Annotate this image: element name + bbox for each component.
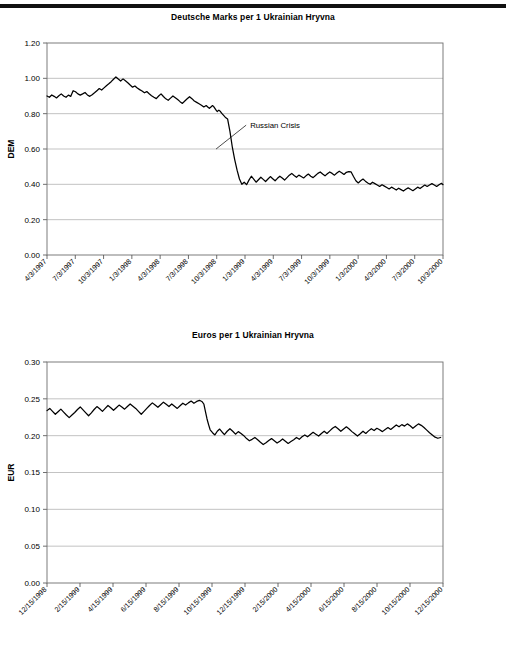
- x-tick-label: 10/3/1998: [189, 257, 218, 286]
- x-tick-label: 2/15/2000: [250, 585, 279, 614]
- annotation-leader-line: [216, 125, 246, 149]
- x-tick-label: 8/15/2000: [349, 585, 378, 614]
- data-series-line: [47, 400, 441, 444]
- x-tick-label: 6/15/1999: [118, 585, 147, 614]
- page-top-rule: [0, 4, 506, 8]
- x-tick-label: 7/3/1997: [51, 257, 77, 283]
- x-tick-label: 4/3/2000: [362, 257, 388, 283]
- x-tick-label: 7/3/1999: [277, 257, 303, 283]
- x-tick-label: 1/3/2000: [333, 257, 359, 283]
- x-tick-label: 4/15/1999: [85, 585, 114, 614]
- x-tick-label: 12/15/1998: [17, 585, 49, 617]
- y-tick-label: 0.10: [24, 505, 40, 514]
- chart-eur-canvas: 0.000.050.100.150.200.250.3012/15/19982/…: [0, 340, 506, 640]
- y-tick-label: 0.05: [24, 542, 40, 551]
- chart-dem-title: Deutsche Marks per 1 Ukrainian Hryvna: [0, 12, 506, 22]
- y-tick-label: 0.25: [24, 395, 40, 404]
- annotation-label: Russian Crisis: [250, 121, 300, 130]
- x-tick-label: 10/3/1999: [302, 257, 331, 286]
- x-tick-label: 10/15/2000: [380, 585, 412, 617]
- x-tick-label: 6/15/2000: [316, 585, 345, 614]
- x-tick-label: 12/15/2000: [413, 585, 445, 617]
- y-tick-label: 0.00: [24, 251, 40, 260]
- chart-dem: Deutsche Marks per 1 Ukrainian Hryvna 0.…: [0, 12, 506, 312]
- y-tick-label: 0.30: [24, 358, 40, 367]
- y-tick-label: 0.15: [24, 468, 40, 477]
- x-tick-label: 1/3/1998: [107, 257, 133, 283]
- x-tick-label: 7/3/2000: [390, 257, 416, 283]
- y-tick-label: 0.20: [24, 432, 40, 441]
- chart-page: Deutsche Marks per 1 Ukrainian Hryvna 0.…: [0, 0, 506, 646]
- y-tick-label: 0.60: [24, 145, 40, 154]
- chart-eur: Euros per 1 Ukrainian Hryvna 0.000.050.1…: [0, 330, 506, 646]
- x-tick-label: 7/3/1998: [164, 257, 190, 283]
- y-tick-label: 0.40: [24, 180, 40, 189]
- chart-eur-title: Euros per 1 Ukrainian Hryvna: [0, 330, 506, 340]
- y-tick-label: 0.20: [24, 216, 40, 225]
- y-tick-label: 1.20: [24, 39, 40, 48]
- x-tick-label: 10/15/1999: [182, 585, 214, 617]
- x-tick-label: 1/3/1999: [220, 257, 246, 283]
- x-tick-label: 4/3/1999: [249, 257, 275, 283]
- x-tick-label: 4/15/2000: [283, 585, 312, 614]
- x-tick-label: 10/3/1997: [76, 257, 105, 286]
- x-tick-label: 10/3/2000: [415, 257, 444, 286]
- x-tick-label: 12/15/1999: [215, 585, 247, 617]
- data-series-line: [47, 77, 443, 191]
- y-tick-label: 0.00: [24, 579, 40, 588]
- x-tick-label: 4/3/1998: [135, 257, 161, 283]
- y-tick-label: 0.80: [24, 110, 40, 119]
- chart-dem-canvas: 0.000.200.400.600.801.001.204/3/19977/3/…: [0, 22, 506, 310]
- x-tick-label: 8/15/1999: [151, 585, 180, 614]
- x-tick-label: 4/3/1997: [22, 257, 48, 283]
- y-axis-title: DEM: [6, 140, 16, 159]
- y-tick-label: 1.00: [24, 74, 40, 83]
- y-axis-title: EUR: [6, 464, 16, 482]
- x-tick-label: 2/15/1999: [52, 585, 81, 614]
